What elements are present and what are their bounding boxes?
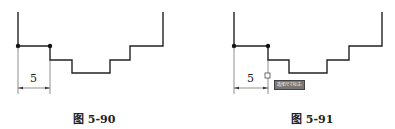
grip-point-right xyxy=(266,44,270,48)
step-profile xyxy=(18,12,163,73)
figure-5-90-drawing xyxy=(16,12,163,94)
dimension-text: 5 xyxy=(30,72,37,85)
grip-point-right xyxy=(48,44,52,48)
arrow-right-icon xyxy=(45,87,50,89)
figure-caption: 图 5-91 xyxy=(291,110,333,126)
command-tooltip: 选择尺寸标注: xyxy=(274,80,305,90)
step-profile xyxy=(234,12,382,73)
arrow-left-icon xyxy=(18,87,23,89)
dimension-text: 5 xyxy=(247,72,254,85)
figure-caption: 图 5-90 xyxy=(73,110,115,126)
snap-marker-icon[interactable] xyxy=(265,73,270,78)
figure-5-91-drawing xyxy=(232,12,382,94)
arrow-left-icon xyxy=(234,87,239,89)
drawing-canvas xyxy=(0,0,395,129)
arrow-right-icon xyxy=(263,87,268,89)
